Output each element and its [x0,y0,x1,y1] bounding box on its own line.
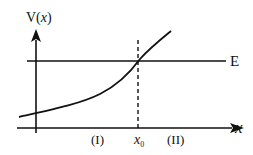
potential-energy-diagram: V(x) E x (I) x0 (II) [0,0,253,155]
y-axis-label: V(x) [26,10,52,26]
x-axis-label: x [234,118,243,137]
boundary-label: x0 [133,132,144,149]
region-one-label: (I) [91,132,104,147]
region-two-label: (II) [167,132,184,147]
diagram-canvas: V(x) E x (I) x0 (II) [0,0,253,155]
potential-curve [19,31,171,117]
energy-label: E [230,53,239,69]
